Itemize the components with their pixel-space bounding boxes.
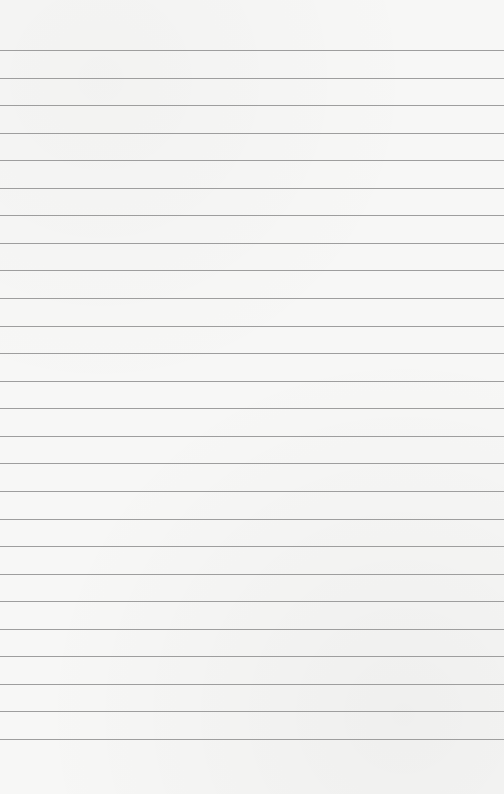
ruled-line: [0, 629, 504, 630]
ruled-line: [0, 188, 504, 189]
ruled-line: [0, 243, 504, 244]
ruled-line: [0, 353, 504, 354]
ruled-line: [0, 105, 504, 106]
ruled-line: [0, 408, 504, 409]
ruled-line: [0, 50, 504, 51]
ruled-line: [0, 546, 504, 547]
ruled-line: [0, 270, 504, 271]
ruled-line: [0, 491, 504, 492]
lined-paper: [0, 0, 504, 794]
ruled-line: [0, 381, 504, 382]
ruled-line: [0, 519, 504, 520]
ruled-line: [0, 133, 504, 134]
ruled-line: [0, 298, 504, 299]
ruled-line: [0, 463, 504, 464]
ruled-line: [0, 160, 504, 161]
ruled-line: [0, 684, 504, 685]
ruled-line: [0, 711, 504, 712]
ruled-line: [0, 656, 504, 657]
ruled-line: [0, 574, 504, 575]
ruled-line: [0, 739, 504, 740]
ruled-line: [0, 78, 504, 79]
ruled-line: [0, 215, 504, 216]
ruled-line: [0, 601, 504, 602]
ruled-line: [0, 326, 504, 327]
ruled-line: [0, 436, 504, 437]
